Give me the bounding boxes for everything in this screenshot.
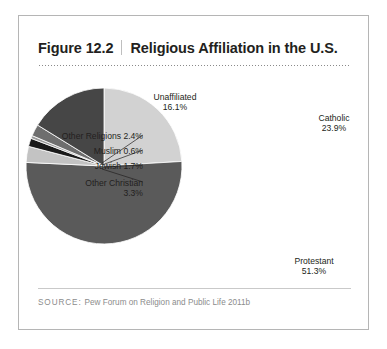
pie-label-jewish: Jewish 1.7% — [49, 161, 143, 171]
figure-number: Figure 12.2 — [38, 40, 113, 56]
pie-slice-protestant — [26, 161, 182, 244]
figure-header: Figure 12.2 Religious Affiliation in the… — [38, 38, 351, 62]
figure-card: Figure 12.2 Religious Affiliation in the… — [18, 15, 369, 330]
source-divider — [38, 288, 351, 289]
pie-label-other-religions: Other Religions 2.4% — [23, 131, 143, 141]
pie-label-protestant: Protestant51.3% — [271, 256, 357, 277]
page-title: Religious Affiliation in the U.S. — [130, 40, 337, 56]
chart-area: Unaffiliated16.1% Catholic23.9% Protesta… — [19, 68, 368, 283]
source-label: SOURCE: — [38, 298, 82, 307]
source-line: SOURCE:Pew Forum on Religion and Public … — [38, 298, 351, 307]
title-divider — [121, 40, 122, 55]
title-dotted-rule — [38, 65, 351, 66]
pie-label-muslim: Muslim 0.6% — [43, 146, 143, 156]
source-text: Pew Forum on Religion and Public Life 20… — [85, 298, 251, 307]
pie-label-unaffiliated: Unaffiliated16.1% — [132, 92, 218, 113]
pie-label-other-christian: Other Christian3.3% — [41, 178, 143, 199]
pie-label-catholic: Catholic23.9% — [299, 113, 369, 134]
